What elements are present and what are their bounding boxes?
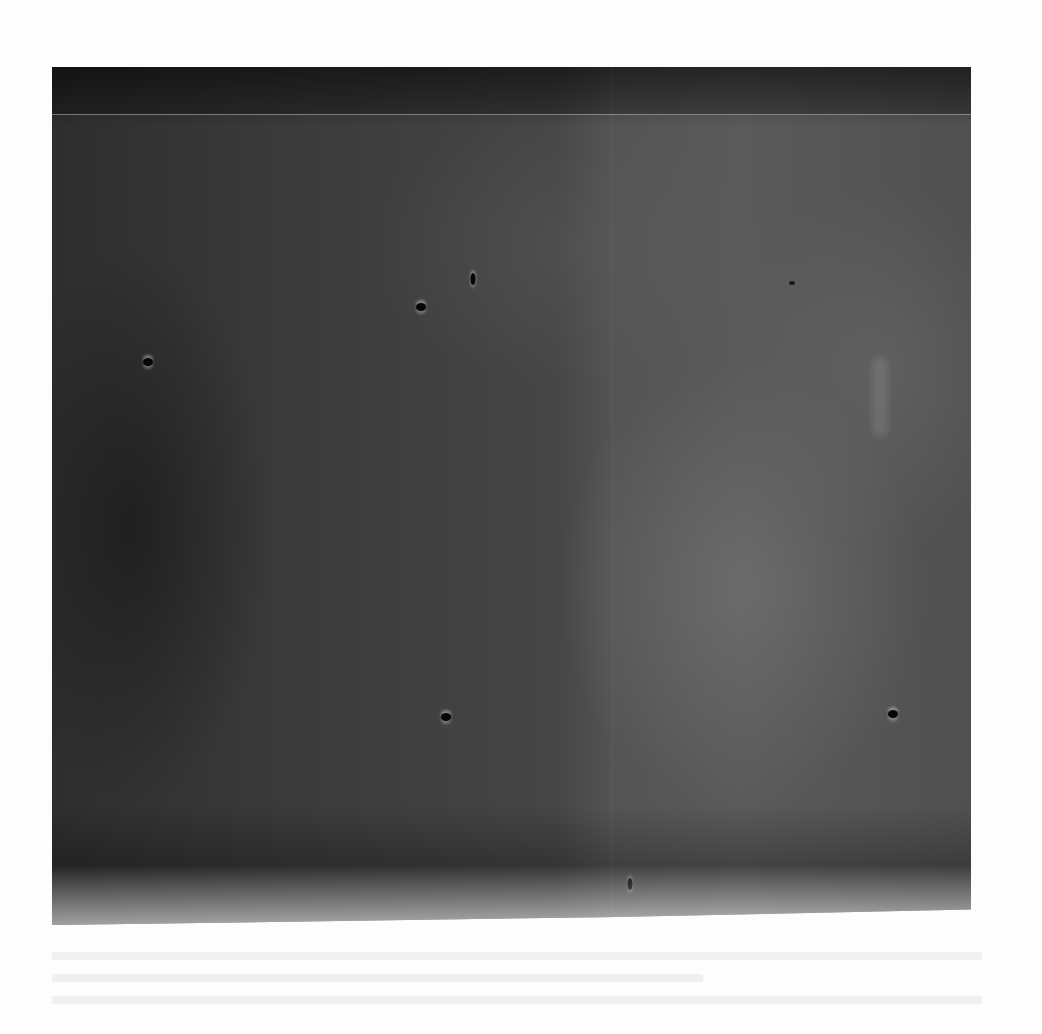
light-streak: [872, 357, 888, 437]
scan-line-artifact: [52, 114, 971, 115]
figure-caption-faint: [52, 942, 982, 1018]
micrograph-figure: [52, 67, 971, 925]
caption-line: [52, 974, 703, 982]
dark-spot: [143, 358, 153, 366]
dark-spot: [471, 273, 476, 285]
top-dark-band: [52, 67, 971, 114]
dark-spot: [416, 303, 426, 311]
dark-spot: [628, 878, 633, 890]
dark-spot: [789, 281, 795, 285]
dark-spot: [888, 710, 898, 718]
dark-spot: [441, 713, 451, 721]
caption-line: [52, 996, 982, 1004]
caption-line: [52, 952, 982, 960]
vertical-seam: [612, 67, 613, 925]
